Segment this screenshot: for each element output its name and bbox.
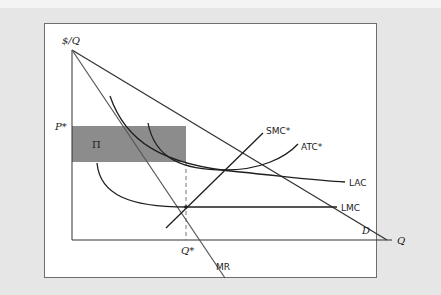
lac-label: LAC [349, 178, 367, 188]
profit-label: Π [92, 139, 101, 150]
monopoly-cost-diagram: $/Q Q P* Q* Π SMC* ATC* LAC LMC D MR [0, 0, 441, 295]
lmc-label: LMC [341, 203, 360, 213]
mr-label: MR [216, 262, 230, 272]
demand-label: D [361, 225, 370, 236]
x-axis-label: Q [397, 235, 405, 246]
smc-label: SMC* [266, 126, 291, 136]
q-star-label: Q* [181, 245, 194, 256]
equilibrium-point [184, 205, 188, 209]
p-star-label: P* [54, 121, 67, 132]
atc-label: ATC* [301, 142, 323, 152]
y-axis-label: $/Q [62, 35, 80, 46]
mr-curve [72, 50, 225, 278]
